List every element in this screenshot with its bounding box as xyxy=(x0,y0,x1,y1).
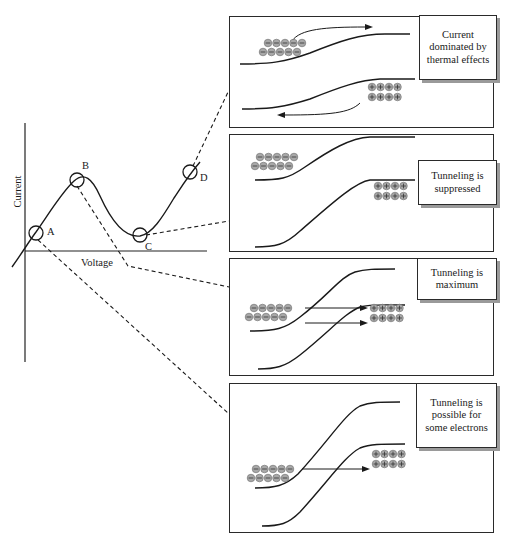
valence-band-p xyxy=(255,180,415,247)
point-a-label: A xyxy=(47,226,55,237)
caption-text: Tunneling is possible for some electrons xyxy=(421,397,492,435)
hole-cluster xyxy=(370,304,403,322)
caption-maximum: Tunneling is maximum xyxy=(417,258,497,300)
electron-flow-arrow xyxy=(292,27,365,41)
hole-flow-arrow xyxy=(285,103,360,115)
caption-thermal: Current dominated by thermal effects xyxy=(419,15,497,80)
caption-text: Tunneling is suppressed xyxy=(423,170,492,195)
tunnel-diode-diagram: Current Voltage A B C D Current dominate… xyxy=(0,0,511,542)
hole-cluster xyxy=(368,83,401,101)
hole-cluster xyxy=(372,450,405,468)
point-d-marker xyxy=(183,165,197,179)
arrow-head-icon xyxy=(360,320,368,326)
arrow-head-icon xyxy=(365,24,373,30)
y-axis-label: Current xyxy=(12,167,23,217)
x-axis-label: Voltage xyxy=(81,257,113,268)
caption-possible: Tunneling is possible for some electrons xyxy=(416,383,497,448)
hole-cluster xyxy=(374,182,407,200)
connector-d xyxy=(193,90,229,166)
point-b-marker xyxy=(70,173,84,187)
connector-a xyxy=(38,240,229,414)
connector-c xyxy=(146,221,229,235)
electron-cluster xyxy=(245,304,292,321)
point-d-label: D xyxy=(200,172,208,183)
caption-text: Tunneling is maximum xyxy=(422,267,492,292)
electron-cluster xyxy=(247,465,294,482)
arrow-head-icon xyxy=(277,112,285,118)
connector-b xyxy=(77,186,229,287)
point-c-label: C xyxy=(145,241,152,252)
electron-cluster xyxy=(259,39,306,56)
point-b-label: B xyxy=(82,160,89,171)
caption-text: Current dominated by thermal effects xyxy=(424,29,492,67)
electron-cluster xyxy=(251,153,298,170)
caption-suppressed: Tunneling is suppressed xyxy=(418,160,497,205)
arrow-head-icon xyxy=(362,466,370,472)
